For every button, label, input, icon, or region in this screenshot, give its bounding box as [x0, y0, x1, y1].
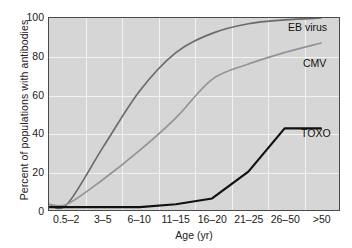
series-curves: [49, 18, 339, 210]
plot-area: [48, 17, 340, 211]
y-tick-20: 20: [18, 167, 44, 178]
y-tick-80: 80: [18, 51, 44, 62]
series-line-cmv: [49, 43, 321, 206]
x-axis-tick-labels: 0.5–23–56–1011–1516–2021–2526–50>50: [48, 213, 340, 229]
x-tick-6: 26–50: [271, 213, 300, 225]
series-line-eb-virus: [49, 18, 321, 209]
y-tick-40: 40: [18, 128, 44, 139]
chart-figure: Percent of populations with antibodies 0…: [0, 0, 352, 248]
series-label-toxo: TOXO: [301, 127, 331, 139]
x-tick-1: 3–5: [94, 213, 112, 225]
series-label-eb-virus: EB virus: [288, 21, 327, 33]
x-axis-title: Age (yr): [48, 229, 340, 241]
y-tick-0: 0: [18, 206, 44, 217]
x-tick-0: 0.5–2: [53, 213, 79, 225]
x-tick-7: >50: [313, 213, 331, 225]
x-tick-5: 21–25: [234, 213, 263, 225]
x-tick-3: 11–15: [162, 213, 190, 225]
x-tick-4: 16–20: [198, 213, 227, 225]
x-tick-2: 6–10: [128, 213, 151, 225]
y-tick-60: 60: [18, 90, 44, 101]
series-label-cmv: CMV: [303, 57, 326, 69]
y-tick-100: 100: [18, 12, 44, 23]
y-axis-tick-labels: 020406080100: [16, 0, 44, 248]
